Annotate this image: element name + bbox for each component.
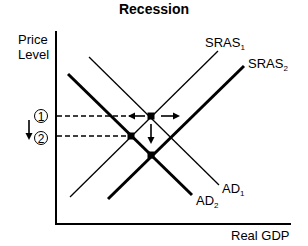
left-arrow-icon [128, 113, 145, 120]
ad2-label: AD2 [196, 194, 219, 213]
ad1-label: AD1 [222, 182, 245, 201]
sras2-label: SRAS2 [248, 57, 288, 76]
right-arrow-icon [161, 113, 180, 120]
ad1-curve [89, 57, 219, 185]
down-arrow-icon [148, 124, 155, 144]
price-decrease-arrow-icon [26, 120, 33, 140]
equilibrium-point-3 [148, 152, 155, 159]
equilibrium-point-1 [148, 113, 155, 120]
sras1-label: SRAS1 [205, 36, 245, 55]
price-marker-1-text: 1 [38, 110, 45, 124]
price-marker-2-text: 2 [38, 132, 45, 146]
as-ad-diagram: 1 2 [0, 0, 308, 246]
sras1-curve [70, 51, 218, 197]
equilibrium-point-2 [128, 133, 135, 140]
